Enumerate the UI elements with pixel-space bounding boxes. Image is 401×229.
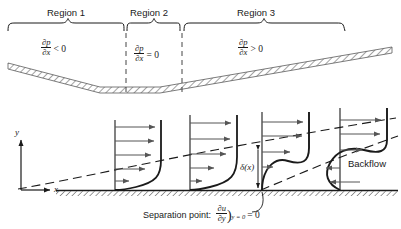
y-axis-label: y bbox=[15, 128, 19, 137]
ground-wall bbox=[56, 191, 398, 197]
separation-subscript: y = 0 bbox=[232, 213, 246, 220]
region-1-relation: < 0 bbox=[51, 44, 65, 54]
region-brace-2 bbox=[127, 19, 180, 32]
region-3-relation: > 0 bbox=[248, 44, 262, 54]
region-3-fraction-numerator: ∂p bbox=[238, 38, 248, 47]
region-1-fraction: ∂p ∂x bbox=[41, 38, 51, 57]
x-axis-label: x bbox=[54, 185, 58, 194]
region-2-title: Region 2 bbox=[130, 8, 168, 18]
region-3-pressure-gradient: ∂p ∂x > 0 bbox=[238, 38, 263, 57]
boundary-layer-separation-figure: Region 1 Region 2 Region 3 ∂p ∂x < 0 ∂p … bbox=[0, 0, 401, 229]
velocity-profile-3 bbox=[262, 112, 309, 190]
region-3-fraction-denominator: ∂x bbox=[238, 47, 248, 57]
figure-canvas bbox=[0, 0, 401, 229]
region-3-title: Region 3 bbox=[237, 8, 275, 18]
velocity-profile-2 bbox=[190, 115, 237, 190]
region-2-fraction-numerator: ∂p bbox=[134, 44, 144, 53]
separation-fraction: ∂u ∂y bbox=[216, 204, 226, 223]
region-1-fraction-denominator: ∂x bbox=[41, 47, 51, 57]
separation-fraction-numerator: ∂u bbox=[216, 204, 226, 213]
region-1-title: Region 1 bbox=[47, 8, 85, 18]
separation-point-label: Separation point: ∂u ∂y )y = 0= 0 bbox=[143, 204, 260, 223]
region-brace-1 bbox=[8, 19, 124, 32]
velocity-profile-4 bbox=[326, 108, 387, 190]
separation-fraction-denominator: ∂y bbox=[216, 213, 226, 223]
region-1-fraction-numerator: ∂p bbox=[41, 38, 51, 47]
region-brace-3 bbox=[184, 19, 345, 32]
velocity-profile-1 bbox=[115, 120, 161, 190]
region-2-pressure-gradient: ∂p ∂x = 0 bbox=[134, 44, 159, 63]
region-2-fraction-denominator: ∂x bbox=[134, 53, 144, 63]
region-3-fraction: ∂p ∂x bbox=[238, 38, 248, 57]
delta-x-label: δ(x) bbox=[240, 163, 254, 172]
separation-point-prefix: Separation point: bbox=[143, 210, 211, 220]
separation-relation: = 0 bbox=[245, 210, 259, 220]
region-1-pressure-gradient: ∂p ∂x < 0 bbox=[41, 38, 66, 57]
region-2-fraction: ∂p ∂x bbox=[134, 44, 144, 63]
region-2-relation: = 0 bbox=[144, 50, 158, 60]
backflow-label: Backflow bbox=[348, 159, 386, 169]
